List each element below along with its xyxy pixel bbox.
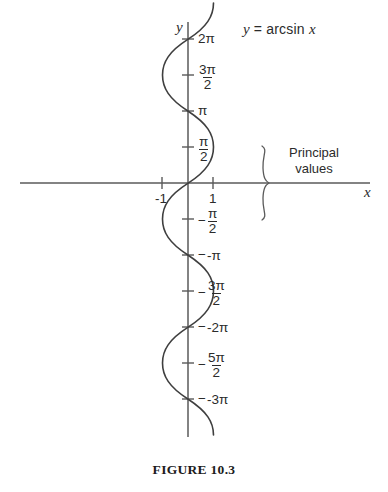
- fraction-numerator: 5π: [207, 351, 226, 365]
- y-tick-label-neg-pi-over-2: − π 2: [198, 207, 218, 236]
- fraction-3pi-over-2: 3π 2: [207, 279, 226, 308]
- figure-caption: FIGURE 10.3: [0, 462, 388, 478]
- fraction-5pi-over-2: 5π 2: [207, 351, 226, 380]
- figure-container: y x y=arcsin x 2π 3π 2 π π 2 − π 2 − -π: [0, 0, 388, 492]
- y-tick-label-neg-pi: − -π: [198, 248, 221, 263]
- fraction-denominator: 2: [212, 365, 222, 380]
- minus-sign: −: [198, 248, 206, 263]
- equation-lhs: y: [243, 21, 250, 37]
- fraction-3pi-over-2: 3π 2: [198, 63, 217, 92]
- equation-label: y=arcsin x: [243, 22, 316, 37]
- y-tick-label-neg-2pi: − -2π: [198, 320, 228, 335]
- fraction-numerator: 3π: [198, 63, 217, 77]
- minus-sign: −: [198, 320, 206, 335]
- y-tick-label-neg-3pi-over-2: − 3π 2: [198, 279, 226, 308]
- fraction-numerator: 3π: [207, 279, 226, 293]
- y-tick-label-pi-over-2: π 2: [198, 135, 209, 164]
- y-tick-label-neg-3pi: − -3π: [198, 392, 228, 407]
- minus-sign: −: [198, 286, 206, 301]
- fraction-numerator: π: [198, 135, 209, 149]
- tick-value: -2π: [207, 321, 228, 335]
- equation-operator: =: [250, 21, 266, 37]
- fraction-numerator: π: [207, 207, 218, 221]
- fraction-denominator: 2: [212, 293, 222, 308]
- arcsin-plot: [0, 0, 388, 492]
- signed-fraction: − 3π 2: [198, 279, 226, 308]
- tick-value: -π: [207, 249, 221, 263]
- fraction-denominator: 2: [199, 149, 209, 164]
- principal-values-label: Principal values: [278, 145, 350, 177]
- y-tick-label-neg-5pi-over-2: − 5π 2: [198, 351, 226, 380]
- signed-value: − -π: [198, 248, 221, 263]
- x-axis-label: x: [364, 185, 371, 200]
- x-tick-label-minus-1: -1: [155, 192, 167, 206]
- y-axis-label: y: [176, 20, 183, 35]
- y-tick-label-pi: π: [198, 104, 207, 118]
- fraction-pi-over-2: π 2: [198, 135, 209, 164]
- equation-argument: x: [309, 21, 316, 37]
- minus-sign: −: [198, 392, 206, 407]
- fraction-denominator: 2: [208, 221, 218, 236]
- principal-values-line-1: Principal: [278, 145, 350, 161]
- signed-fraction: − 5π 2: [198, 351, 226, 380]
- y-tick-label-3pi-over-2: 3π 2: [198, 63, 217, 92]
- signed-value: − -2π: [198, 320, 228, 335]
- signed-value: − -3π: [198, 392, 228, 407]
- fraction-pi-over-2: π 2: [207, 207, 218, 236]
- signed-fraction: − π 2: [198, 207, 218, 236]
- fraction-denominator: 2: [203, 77, 213, 92]
- minus-sign: −: [198, 214, 206, 229]
- equation-function: arcsin: [266, 21, 305, 37]
- y-tick-label-2pi: 2π: [198, 32, 215, 46]
- principal-values-line-2: values: [278, 161, 350, 177]
- x-tick-label-plus-1: 1: [209, 192, 217, 206]
- tick-value: -3π: [207, 393, 228, 407]
- minus-sign: −: [198, 358, 206, 373]
